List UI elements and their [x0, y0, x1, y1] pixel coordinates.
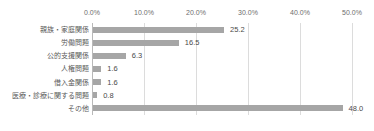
x-tick-label: 20.0%	[186, 8, 206, 18]
bar-row: 25.2	[92, 23, 352, 36]
plot-area: 25.216.56.31.61.60.848.0	[92, 23, 352, 115]
x-tick-label: 40.0%	[290, 8, 310, 18]
x-tick-label: 50.0%	[342, 8, 362, 18]
y-category-label: 労働問題	[0, 36, 89, 49]
bar-value-label: 1.6	[107, 76, 117, 89]
bar-value-label: 0.8	[103, 89, 113, 102]
bar-row: 0.8	[92, 89, 352, 102]
x-tick-label: 0.0%	[84, 8, 100, 18]
bar-value-label: 1.6	[107, 62, 117, 75]
bar-series: 25.216.56.31.61.60.848.0	[92, 23, 352, 115]
bar	[93, 40, 179, 46]
bar	[93, 66, 101, 72]
bar-chart: 0.0%10.0%20.0%30.0%40.0%50.0% 親族・家庭関係労働問…	[0, 0, 374, 131]
bar-value-label: 25.2	[230, 23, 245, 36]
bar-value-label: 16.5	[185, 36, 200, 49]
bar	[93, 27, 224, 33]
bar-row: 48.0	[92, 102, 352, 115]
bar-value-label: 48.0	[349, 102, 364, 115]
y-category-label: 借入金関係	[0, 76, 89, 89]
bar-row: 16.5	[92, 36, 352, 49]
y-category-label: 人権問題	[0, 62, 89, 75]
bar	[93, 53, 126, 59]
x-axis-tick-labels: 0.0%10.0%20.0%30.0%40.0%50.0%	[0, 8, 374, 20]
bar-row: 6.3	[92, 49, 352, 62]
y-category-label: 親族・家庭関係	[0, 23, 89, 36]
bar	[93, 105, 343, 111]
bar-row: 1.6	[92, 76, 352, 89]
y-category-label: 医療・診療に関する問題	[0, 89, 89, 102]
bar-value-label: 6.3	[132, 49, 142, 62]
bar-row: 1.6	[92, 62, 352, 75]
y-category-label: その他	[0, 102, 89, 115]
x-tick-label: 10.0%	[134, 8, 154, 18]
bar	[93, 92, 97, 98]
bar	[93, 79, 101, 85]
x-tick-label: 30.0%	[238, 8, 258, 18]
y-category-label: 公的支援関係	[0, 49, 89, 62]
y-axis-category-labels: 親族・家庭関係労働問題公的支援関係人権問題借入金関係医療・診療に関する問題その他	[0, 23, 89, 115]
